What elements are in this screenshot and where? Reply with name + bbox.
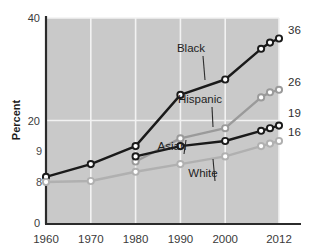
x-tick-label: 2012 <box>266 233 292 245</box>
series-end-value-label: 16 <box>288 126 301 138</box>
data-point-asian <box>267 125 273 131</box>
data-point-white <box>43 179 49 185</box>
data-point-black <box>267 40 273 46</box>
data-point-asian <box>258 128 264 134</box>
data-point-white <box>276 138 282 144</box>
x-tick-label: 1990 <box>168 233 194 245</box>
line-chart: 02040 196019701980199020002012 36261916 … <box>0 0 315 249</box>
x-tick-label: 1980 <box>123 233 149 245</box>
data-point-black <box>222 76 228 82</box>
data-point-hispanic <box>276 87 282 93</box>
x-axis-ticks: 196019701980199020002012 <box>33 233 292 245</box>
x-tick-label: 2000 <box>212 233 238 245</box>
y-tick-label: 40 <box>28 12 40 24</box>
series-end-value-label: 36 <box>288 24 301 36</box>
series-start-labels: 98 <box>36 145 42 188</box>
data-point-hispanic <box>222 125 228 131</box>
data-point-asian <box>222 138 228 144</box>
x-tick-label: 1970 <box>78 233 104 245</box>
series-name-label: Hispanic <box>178 93 222 105</box>
data-point-white <box>267 141 273 147</box>
data-point-black <box>133 143 139 149</box>
data-point-asian <box>276 123 282 129</box>
data-point-black <box>88 161 94 167</box>
y-axis-ticks: 02040 <box>28 12 40 229</box>
series-name-label: Asian <box>158 140 187 152</box>
x-tick-label: 1960 <box>33 233 59 245</box>
series-end-value-label: 26 <box>288 76 301 88</box>
series-start-value-label: 9 <box>36 145 42 157</box>
data-point-white <box>177 161 183 167</box>
series-name-label: White <box>188 167 217 179</box>
data-point-white <box>222 153 228 159</box>
series-name-label: Black <box>177 42 205 54</box>
data-point-white <box>88 178 94 184</box>
y-tick-label: 0 <box>34 217 40 229</box>
data-point-hispanic <box>267 89 273 95</box>
data-point-white <box>133 169 139 175</box>
data-point-white <box>258 143 264 149</box>
chart-container: 02040 196019701980199020002012 36261916 … <box>0 0 315 249</box>
data-point-black <box>276 35 282 41</box>
data-point-black <box>258 46 264 52</box>
y-tick-label: 20 <box>28 115 40 127</box>
data-point-hispanic <box>258 94 264 100</box>
series-start-value-label: 8 <box>36 176 42 188</box>
data-point-asian <box>133 153 139 159</box>
y-axis-title: Percent <box>10 99 22 140</box>
series-end-value-label: 19 <box>288 107 301 119</box>
series-end-labels: 36261916 <box>288 24 301 138</box>
